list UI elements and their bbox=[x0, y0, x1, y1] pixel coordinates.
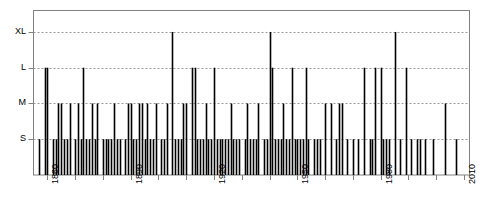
x-axis-label-2010: 2010 bbox=[468, 164, 477, 184]
x-axis-label-1980: 1980 bbox=[385, 164, 394, 184]
chart-figure: SMLXL 186018901920195019802010 bbox=[0, 0, 492, 222]
x-axis-label-1920: 1920 bbox=[218, 164, 227, 184]
gridlines-group bbox=[34, 33, 470, 140]
plot-border bbox=[34, 11, 470, 176]
y-axis-label-l: L bbox=[2, 63, 26, 72]
x-axis-label-1890: 1890 bbox=[135, 164, 144, 184]
y-axis-ticks-group bbox=[29, 33, 34, 140]
x-axis-label-1860: 1860 bbox=[51, 164, 60, 184]
y-axis-label-m: M bbox=[2, 98, 26, 107]
x-axis-ticks-group bbox=[48, 175, 465, 180]
plot-frame bbox=[34, 11, 470, 176]
y-axis-label-s: S bbox=[2, 134, 26, 143]
y-axis-label-xl: XL bbox=[2, 27, 26, 36]
spike-chart-plot bbox=[0, 0, 492, 222]
x-axis-label-1950: 1950 bbox=[301, 164, 310, 184]
